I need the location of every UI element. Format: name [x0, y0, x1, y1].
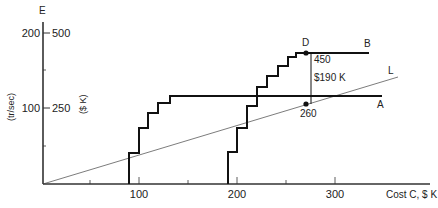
x-axis-title: Cost C, $ K: [386, 189, 437, 200]
point-D: [303, 50, 308, 55]
y-tick-250: 250: [52, 102, 70, 114]
x-tick-200: 200: [228, 188, 246, 200]
y-tick-200: 200: [22, 27, 40, 39]
point-260: [303, 101, 308, 106]
label-A: A: [377, 99, 384, 110]
y-unit-right: ($ K): [78, 94, 88, 114]
value-260: 260: [300, 108, 317, 119]
curve-B: [228, 53, 369, 184]
label-L: L: [388, 65, 394, 76]
cost-effectiveness-diagram: E 200 500 100 250 (tr/sec) ($ K) 100 200…: [0, 0, 438, 208]
y-tick-100: 100: [22, 102, 40, 114]
curve-A: [129, 96, 382, 184]
x-tick-300: 300: [326, 188, 344, 200]
axes: [43, 22, 430, 184]
value-450: 450: [314, 54, 331, 65]
y-unit-left: (tr/sec): [6, 93, 16, 121]
label-B: B: [364, 38, 371, 49]
gap-label: $190 K: [314, 72, 346, 83]
line-L: [43, 77, 398, 184]
x-tick-100: 100: [130, 188, 148, 200]
label-D: D: [302, 37, 309, 48]
y-axis-title: E: [39, 5, 46, 16]
y-tick-500: 500: [52, 27, 70, 39]
